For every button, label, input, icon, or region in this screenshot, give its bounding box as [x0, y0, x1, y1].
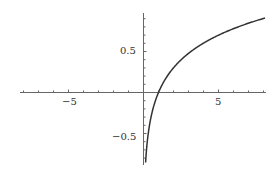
y-tick-label-neg0.5: −0.5 — [112, 132, 136, 142]
y-axis — [144, 13, 147, 165]
x-tick-label-neg5: −5 — [62, 97, 77, 107]
x-tick-label-5: 5 — [215, 97, 221, 107]
plot-area — [0, 0, 277, 177]
log-curve — [146, 18, 265, 163]
y-tick-label-0.5: 0.5 — [120, 46, 136, 56]
